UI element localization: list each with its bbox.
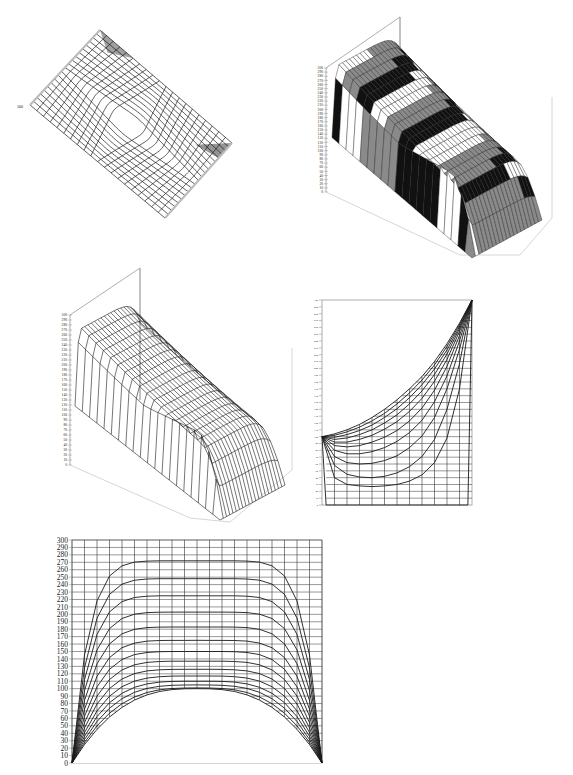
chart1-mesh-line — [44, 90, 178, 203]
z-axis-tick-label: 290 — [318, 70, 324, 74]
y-axis-tick-label: 300 — [57, 536, 69, 545]
y-axis-tick-label: 300 — [314, 299, 319, 302]
chart1-frame-edge — [30, 30, 100, 105]
z-axis-tick-label: 170 — [62, 378, 68, 382]
y-axis-tick-label: 120 — [314, 422, 319, 425]
y-axis-tick-label: 170 — [314, 388, 319, 391]
z-axis-tick-label: 250 — [318, 87, 324, 91]
chart4-svg: 0102030405060708090100110120130140150160… — [300, 290, 480, 515]
z-axis-tick-label: 30 — [319, 178, 323, 182]
chart3-svg: 0102030405060708090100110120130140150160… — [30, 260, 300, 530]
y-axis-tick-label: 10 — [315, 497, 318, 500]
chart1-mesh-line — [86, 45, 219, 158]
y-axis-tick-label: 180 — [314, 381, 319, 384]
surface-mesh-line — [111, 343, 176, 435]
z-axis-tick-label: 110 — [62, 408, 67, 412]
y-axis-tick-label: 200 — [314, 367, 319, 370]
y-axis-tick-label: 190 — [314, 374, 319, 377]
z-axis-tick-label: 0 — [65, 463, 67, 467]
z-axis-tick-label: 40 — [63, 443, 67, 447]
z-axis-tick-label: 280 — [62, 323, 68, 327]
y-axis-tick-label: 290 — [314, 306, 319, 309]
y-axis-tick-label: 260 — [314, 326, 319, 329]
z-axis-tick-label: 100 — [62, 413, 68, 417]
z-axis-tick-label: 260 — [62, 333, 68, 337]
z-axis-tick-label: 210 — [62, 358, 68, 362]
y-axis-tick-label: 40 — [315, 477, 318, 480]
y-axis-tick-label: 270 — [314, 319, 319, 322]
y-axis-tick-label: 60 — [315, 463, 318, 466]
z-axis-tick-label: 90 — [319, 153, 323, 157]
z-axis-tick-label: 10 — [63, 458, 67, 462]
chart1-mesh-line — [145, 126, 212, 201]
z-axis-tick-label: 200 — [62, 363, 68, 367]
surface-mesh-line — [104, 336, 169, 429]
z-axis-tick-label: 200 — [318, 108, 324, 112]
z-axis-tick-label: 20 — [63, 453, 67, 457]
z-axis-tick-label: 150 — [62, 388, 68, 392]
z-axis-tick-label: 230 — [62, 348, 68, 352]
box-edge — [70, 465, 230, 522]
surface-mesh-line — [75, 307, 140, 407]
z-axis-tick-label: 270 — [318, 79, 324, 83]
y-axis-tick-label: 280 — [314, 313, 319, 316]
chart1-mesh-line — [65, 68, 199, 181]
chart4-line-chart: 0102030405060708090100110120130140150160… — [300, 290, 480, 515]
z-axis-tick-label: 190 — [318, 112, 324, 116]
surface-mesh-line — [137, 314, 282, 487]
z-axis-tick-label: 290 — [62, 318, 68, 322]
surface-mesh-line — [78, 342, 223, 518]
z-axis-tick-label: 270 — [62, 328, 68, 332]
z-axis-tick-label: 170 — [318, 120, 324, 124]
z-axis-tick-label: 180 — [62, 373, 68, 377]
z-axis-tick-label: 110 — [318, 145, 323, 149]
y-axis-tick-label: 220 — [314, 354, 319, 357]
y-axis-tick-label: 130 — [314, 415, 319, 418]
z-axis-tick-label: 220 — [62, 353, 68, 357]
z-axis-tick-label: 190 — [62, 368, 68, 372]
z-axis-tick-label: 280 — [318, 74, 324, 78]
z-axis-tick-label: 300 — [318, 66, 324, 70]
chart1-frame-edge — [165, 143, 232, 218]
y-axis-tick-label: 110 — [314, 429, 318, 432]
surface-mesh-line — [140, 322, 285, 485]
y-axis-tick-label: 230 — [314, 347, 319, 350]
z-axis-tick-label: 60 — [319, 165, 323, 169]
surface-mesh-line — [97, 328, 162, 423]
z-axis-tick-label: 250 — [62, 338, 68, 342]
y-axis-tick-label: 100 — [314, 436, 319, 439]
y-axis-tick-label: 80 — [315, 449, 318, 452]
z-axis-tick-label: 60 — [63, 433, 67, 437]
z-axis-tick-label: 70 — [319, 161, 323, 165]
z-axis-tick-label: 260 — [318, 83, 324, 87]
y-axis-tick-label: 90 — [315, 442, 318, 445]
z-axis-tick-label: 240 — [62, 343, 68, 347]
y-axis-tick-label: 70 — [315, 456, 318, 459]
y-axis-tick-label: 0 — [317, 504, 319, 507]
z-axis-tick-label: 120 — [62, 403, 68, 407]
z-axis-tick-label: 140 — [62, 393, 68, 397]
z-axis-tick-label: 90 — [63, 418, 67, 422]
y-axis-tick-label: 250 — [314, 333, 319, 336]
z-axis-tick-label: 0 — [321, 190, 323, 194]
box-edge — [70, 268, 140, 315]
z-axis-tick-label: 10 — [319, 186, 323, 190]
chart1-mesh-line — [58, 75, 192, 188]
z-axis-tick-label: 210 — [318, 103, 324, 107]
y-axis-tick-label: 50 — [315, 470, 318, 473]
chart1-z-label: 300 — [17, 104, 23, 109]
z-axis-tick-label: 130 — [62, 398, 68, 402]
z-axis-tick-label: 130 — [318, 136, 324, 140]
z-axis-tick-label: 180 — [318, 116, 324, 120]
z-axis-tick-label: 160 — [62, 383, 68, 387]
z-axis-tick-label: 140 — [318, 132, 324, 136]
z-axis-tick-label: 100 — [318, 149, 324, 153]
z-axis-tick-label: 220 — [318, 99, 324, 103]
y-axis-tick-label: 240 — [314, 340, 319, 343]
z-axis-tick-label: 40 — [319, 174, 323, 178]
z-axis-tick-label: 70 — [63, 428, 67, 432]
chart2-banded-surface-plot: 0102030405060708090100110120130140150160… — [290, 0, 573, 260]
y-axis-tick-label: 140 — [314, 408, 319, 411]
chart1-mesh-line — [93, 38, 225, 151]
z-axis-tick-label: 300 — [62, 313, 68, 317]
